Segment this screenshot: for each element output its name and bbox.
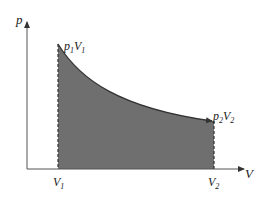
- work-area: [58, 44, 214, 169]
- end-point-label: p2V2: [212, 109, 234, 125]
- v1-tick-label: V1: [53, 175, 64, 191]
- start-point-label: p1V1: [63, 39, 85, 55]
- y-axis-label: p: [15, 12, 23, 27]
- pv-diagram: p V p1V1 p2V2 V1 V2: [0, 0, 268, 199]
- x-axis-label: V: [245, 166, 255, 181]
- v2-tick-label: V2: [208, 175, 219, 191]
